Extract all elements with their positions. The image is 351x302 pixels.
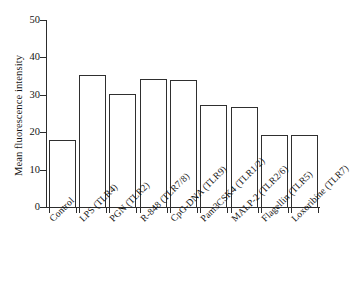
y-tick-mark [40, 20, 46, 21]
bar [79, 75, 106, 207]
y-tick-mark [40, 207, 46, 208]
y-tick-label: 40 [16, 51, 40, 62]
x-tick-mark [258, 207, 259, 213]
x-tick-mark [106, 207, 107, 213]
y-tick-label: 0 [16, 201, 40, 212]
y-tick-mark [40, 95, 46, 96]
y-tick-label: 20 [16, 126, 40, 137]
x-tick-mark [167, 207, 168, 213]
y-tick-label: 50 [16, 14, 40, 25]
x-tick-mark [197, 207, 198, 213]
y-tick-label: 30 [16, 89, 40, 100]
x-tick-mark [318, 207, 319, 213]
y-tick-mark [40, 57, 46, 58]
x-tick-mark [136, 207, 137, 213]
x-tick-mark [76, 207, 77, 213]
x-tick-mark [288, 207, 289, 213]
plot-area: 01020304050 ControlLPS (TLR4)PGN (TLR2)R… [46, 20, 319, 207]
y-tick-label: 10 [16, 164, 40, 175]
x-tick-mark [227, 207, 228, 213]
y-tick-mark [40, 132, 46, 133]
y-tick-mark [40, 170, 46, 171]
bar [49, 140, 76, 207]
y-axis-line [46, 20, 47, 208]
